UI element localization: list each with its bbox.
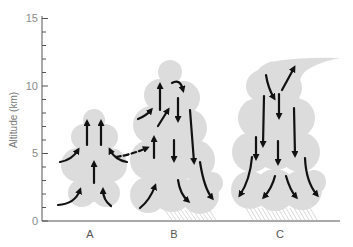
stage-c-cloud: C: [231, 58, 340, 240]
tick-label-5: 5: [32, 147, 38, 159]
stage-a-cloud: A: [58, 109, 127, 240]
stage-label-a: A: [86, 228, 94, 240]
stage-b-cloud: B: [116, 60, 223, 240]
tick-label-15: 15: [26, 12, 38, 24]
stage-label-b: B: [170, 228, 177, 240]
tick-label-10: 10: [26, 80, 38, 92]
thunderstorm-diagram: 0 5 10 15 Altitude (km) A: [0, 0, 353, 247]
tick-label-0: 0: [32, 215, 38, 227]
stage-label-c: C: [276, 228, 284, 240]
y-axis-title: Altitude (km): [8, 92, 19, 148]
